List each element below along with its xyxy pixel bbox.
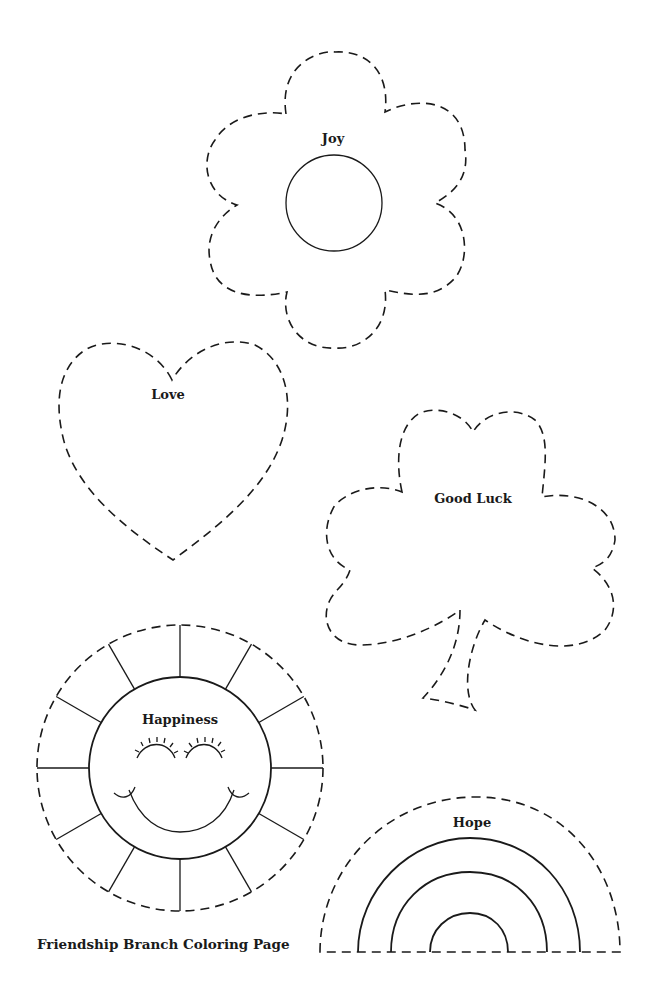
sun-rays (37, 625, 323, 911)
shamrock-label: Good Luck (434, 491, 512, 506)
sun-eyes (135, 737, 225, 758)
page-caption: Friendship Branch Coloring Page (37, 936, 290, 952)
shamrock-shape (326, 410, 615, 710)
heart-label: Love (151, 387, 185, 402)
flower-shape (207, 52, 466, 348)
sun-label: Happiness (142, 712, 218, 727)
coloring-page-canvas (0, 0, 655, 999)
rainbow-label: Hope (453, 815, 491, 830)
sun-smile (114, 787, 249, 832)
flower-center-circle (286, 155, 382, 251)
sun-shape (37, 625, 323, 911)
heart-shape (59, 342, 288, 560)
flower-label: Joy (322, 131, 344, 146)
